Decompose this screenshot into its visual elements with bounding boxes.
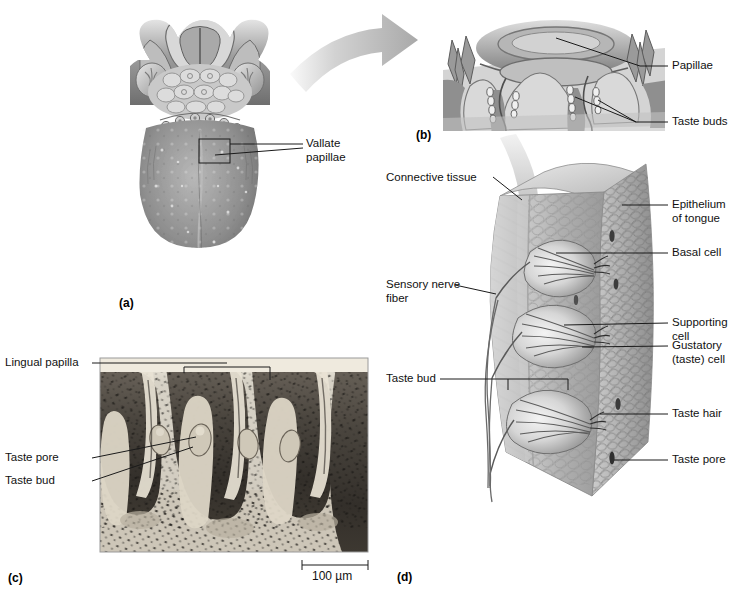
panel-b-papilla-section bbox=[443, 20, 668, 140]
label-connective-tissue: Connective tissue bbox=[386, 171, 477, 185]
label-basal-cell: Basal cell bbox=[672, 246, 721, 260]
label-epithelium-of-tongue: Epitheliumof tongue bbox=[672, 198, 726, 225]
label-taste-hair: Taste hair bbox=[672, 407, 722, 421]
scale-bar-label: 100 µm bbox=[312, 570, 352, 584]
label-papillae: Papillae bbox=[672, 59, 713, 73]
panel-letter-c: (c) bbox=[8, 571, 23, 585]
label-gustatory-taste-cell: Gustatory(taste) cell bbox=[672, 339, 725, 366]
label-lingual-papilla: Lingual papilla bbox=[5, 356, 79, 370]
label-taste-bud-d: Taste bud bbox=[386, 372, 436, 386]
arrow-a-to-b bbox=[290, 14, 418, 92]
panel-d-tissue-block bbox=[440, 163, 668, 510]
label-taste-bud-c: Taste bud bbox=[5, 474, 55, 488]
panel-letter-b: (b) bbox=[416, 128, 431, 142]
label-taste-pore-d: Taste pore bbox=[672, 453, 726, 467]
anatomy-figure bbox=[0, 0, 733, 600]
label-vallate-papillae: Vallatepapillae bbox=[306, 137, 346, 164]
panel-letter-a: (a) bbox=[119, 296, 134, 310]
label-taste-pore-c: Taste pore bbox=[5, 451, 59, 465]
label-sensory-nerve-fiber: Sensory nervefiber bbox=[386, 278, 460, 305]
panel-a-tongue-image bbox=[130, 15, 303, 285]
panel-c-micrograph bbox=[92, 358, 376, 570]
label-taste-buds: Taste buds bbox=[672, 115, 728, 129]
panel-letter-d: (d) bbox=[397, 570, 412, 584]
